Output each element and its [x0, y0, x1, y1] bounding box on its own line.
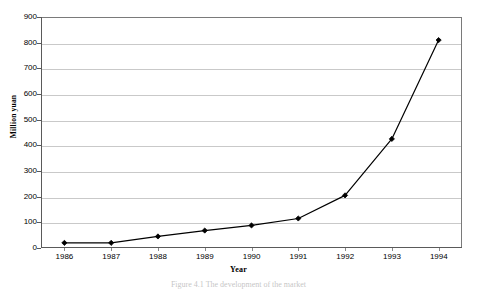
- data-point-marker: [155, 234, 160, 239]
- data-point-marker: [436, 38, 441, 43]
- figure-caption: Figure 4.1 The development of the market: [0, 280, 477, 289]
- data-point-marker: [296, 216, 301, 221]
- data-point-marker: [62, 240, 67, 245]
- data-point-marker: [202, 228, 207, 233]
- data-point-marker: [109, 240, 114, 245]
- y-axis-title: Million yuan: [9, 82, 18, 152]
- x-axis-title: Year: [0, 265, 477, 274]
- data-point-marker: [249, 223, 254, 228]
